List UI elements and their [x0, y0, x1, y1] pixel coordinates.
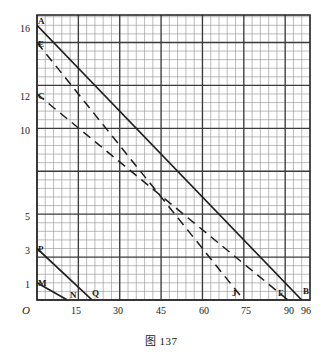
graph-figure — [0, 0, 322, 357]
point-label-C: C — [38, 92, 45, 101]
point-label-P: P — [38, 245, 44, 254]
y-tick-label-1: 1 — [8, 280, 30, 290]
origin-label: O — [22, 305, 30, 316]
point-label-J: J — [232, 289, 237, 298]
x-tick-label-75: 75 — [236, 306, 256, 316]
point-label-N: N — [70, 291, 77, 300]
y-tick-label-3: 3 — [8, 246, 30, 256]
figure-caption: 图 137 — [0, 332, 322, 348]
point-label-B: B — [303, 287, 309, 296]
x-tick-label-15: 15 — [66, 306, 86, 316]
point-label-A: A — [38, 17, 45, 26]
point-label-F: F — [278, 289, 284, 298]
y-tick-label-5: 5 — [8, 212, 30, 222]
x-tick-label-60: 60 — [194, 306, 214, 316]
x-tick-label-30: 30 — [108, 306, 128, 316]
point-label-E: E — [38, 40, 44, 49]
point-label-Q: Q — [92, 289, 99, 298]
y-tick-label-10: 10 — [8, 126, 30, 136]
x-tick-label-45: 45 — [151, 306, 171, 316]
y-tick-label-16: 16 — [8, 24, 30, 34]
x-tick-label-96: 96 — [296, 306, 316, 316]
point-label-M: M — [38, 279, 47, 288]
y-tick-label-12: 12 — [8, 92, 30, 102]
